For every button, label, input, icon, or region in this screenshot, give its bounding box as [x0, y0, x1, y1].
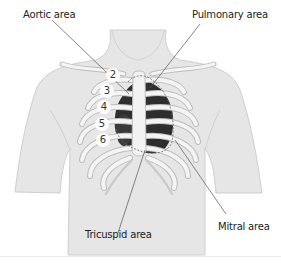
auscultation-diagram: 2 3 4 5 6 Aortic area Pulmonary area Tri… — [0, 0, 281, 267]
divider-line — [0, 256, 281, 257]
intercostal-number-3: 3 — [100, 84, 114, 98]
sternum — [132, 71, 146, 156]
pulmonary-area-label: Pulmonary area — [192, 9, 268, 20]
intercostal-number-4: 4 — [97, 100, 111, 114]
intercostal-number-5: 5 — [95, 117, 109, 131]
aortic-area-label: Aortic area — [23, 9, 75, 20]
intercostal-number-2: 2 — [106, 68, 120, 82]
tricuspid-area-label: Tricuspid area — [85, 229, 152, 240]
intercostal-number-6: 6 — [96, 133, 110, 147]
mitral-area-label: Mitral area — [218, 221, 270, 232]
